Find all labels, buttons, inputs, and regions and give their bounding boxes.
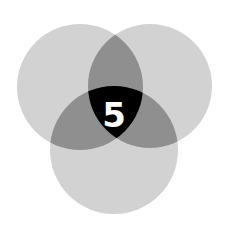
center-count-label: 5	[102, 95, 126, 135]
venn-diagram: 5	[0, 0, 233, 226]
